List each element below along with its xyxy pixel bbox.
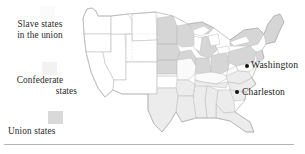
legend-swatch-confederate-states <box>42 62 57 75</box>
city-label-charleston: Charleston <box>242 86 285 97</box>
city-dot-icon <box>235 90 239 94</box>
legend-label-line1: Confederate <box>3 75 77 86</box>
map-figure: Slave states in the union Confederate st… <box>0 0 305 154</box>
legend-label-line2: states <box>3 86 77 97</box>
city-label-washington: Washington <box>251 59 298 70</box>
legend-label-line1: Slave states <box>3 19 77 30</box>
legend-label-line2: in the union <box>3 30 77 41</box>
legend-swatch-slave-states <box>40 6 55 19</box>
us-map <box>78 0 305 146</box>
map-legend: Slave states in the union Confederate st… <box>0 0 80 140</box>
bottom-divider <box>4 144 294 145</box>
legend-label-confederate-states: Confederate states <box>3 75 77 97</box>
city-dot-icon <box>245 64 249 68</box>
legend-swatch-union-states <box>48 111 63 124</box>
legend-label-slave-states: Slave states in the union <box>3 19 77 41</box>
us-map-svg <box>78 0 305 146</box>
legend-label-line1: Union states <box>8 126 82 137</box>
legend-label-union-states: Union states <box>3 126 82 137</box>
